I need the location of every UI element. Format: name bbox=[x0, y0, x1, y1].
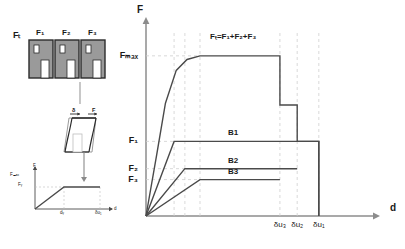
x-tick-label-2: δu₁ bbox=[301, 221, 337, 229]
curve-label-b1: B1 bbox=[228, 129, 238, 137]
main-pushover-chart bbox=[124, 4, 402, 236]
curve-label-b2: B2 bbox=[228, 157, 238, 165]
bay-label-1: F₁ bbox=[36, 29, 44, 37]
bilinear-ytick-fmax: Fₘₐₓ bbox=[10, 173, 19, 178]
y-tick-label-2: F₂ bbox=[96, 164, 138, 173]
building-bay-2 bbox=[55, 40, 79, 78]
bilinear-y-axis-label: F bbox=[33, 164, 36, 169]
y-tick-label-1: F₁ bbox=[96, 136, 138, 145]
chart-x-axis-label: d bbox=[390, 203, 396, 213]
bilinear-xtick-du: δu₁ bbox=[95, 211, 102, 216]
building-bay-1 bbox=[29, 40, 53, 78]
chart-x-axis-arrow bbox=[373, 213, 380, 220]
frame-force-label: F bbox=[92, 108, 95, 114]
frame-opening bbox=[73, 134, 82, 152]
curve-b1 bbox=[146, 141, 319, 216]
y-tick-label-0: Fₘₐₓ bbox=[96, 51, 138, 60]
chart-guide-lines bbox=[146, 30, 319, 216]
frame-drift-label: δ bbox=[72, 108, 75, 114]
frame-drift-arrow-head bbox=[77, 112, 80, 115]
bilinear-x-axis-arrow bbox=[109, 207, 113, 211]
bilinear-ytick-fy: Fᵧ bbox=[18, 183, 22, 188]
curve-label-b3: B3 bbox=[228, 168, 238, 176]
connector-building-to-frame bbox=[74, 82, 88, 110]
chart-y-axis-label: F bbox=[137, 5, 143, 15]
curve-b2 bbox=[146, 169, 297, 216]
curve-b3 bbox=[146, 180, 280, 216]
applied-force-label: Fₜ bbox=[13, 31, 22, 40]
figure-root: Fₜ F₁ F₂ F₃ δ F F Fₘₐₓ Fᵧ dᵧ δu₁ bbox=[0, 0, 405, 249]
bay-label-2: F₂ bbox=[62, 29, 70, 37]
chart-total-equation-label: Fₜ=F₁+F₂+F₃ bbox=[210, 33, 256, 41]
bilinear-curve bbox=[35, 187, 100, 209]
y-tick-label-3: F₃ bbox=[96, 175, 138, 184]
bay-label-3: F₃ bbox=[88, 29, 97, 37]
bilinear-x-axis-label: d bbox=[114, 207, 117, 212]
bilinear-xtick-dy: dᵧ bbox=[60, 211, 64, 216]
deformed-frame-inset bbox=[58, 108, 108, 156]
chart-y-axis-arrow bbox=[143, 17, 150, 24]
